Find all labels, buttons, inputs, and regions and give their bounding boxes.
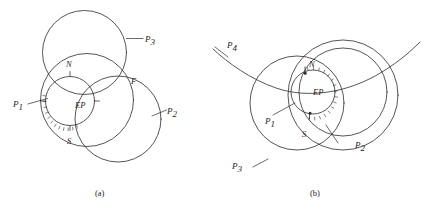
label-south-a: S <box>67 136 72 146</box>
node-south-dot-b <box>309 112 312 115</box>
leader-p3-b <box>253 159 268 167</box>
diagram-svg: P1 P2 P3 N S F EP (a) <box>0 0 427 214</box>
label-p3-b: P3 <box>231 161 243 174</box>
labels-b: P4 P3 P1 P2 N S EP (b) <box>226 40 366 198</box>
figure-container: P1 P2 P3 N S F EP (a) <box>0 0 427 214</box>
caption-a: (a) <box>95 188 105 198</box>
label-ep-a: EP <box>74 100 85 110</box>
circle-ep-a <box>46 77 95 126</box>
label-p2-b: P2 <box>354 140 366 153</box>
circle-p1-a <box>41 54 134 147</box>
label-p3-a: P3 <box>144 34 156 47</box>
circle-p2-a <box>75 76 161 162</box>
label-ep-b: EP <box>312 87 323 97</box>
circle-p3-b <box>250 56 344 150</box>
label-north-b: N <box>308 59 316 69</box>
leader-p2-a <box>152 110 167 116</box>
panel-a: P1 P2 P3 N S F EP (a) <box>12 11 178 199</box>
label-south-b: S <box>302 129 307 139</box>
node-north-dot-b <box>304 72 307 75</box>
leader-p2-b <box>326 125 338 143</box>
ep-cardinal-ticks-a <box>40 71 100 131</box>
label-north-a: N <box>65 59 73 69</box>
caption-b: (b) <box>310 188 320 198</box>
label-p1-a: P1 <box>12 99 23 112</box>
panel-b: P4 P3 P1 P2 N S EP (b) <box>213 40 420 198</box>
label-p4-b: P4 <box>226 40 238 53</box>
arc-p4-b <box>213 42 420 93</box>
label-p2-a: P2 <box>166 106 178 119</box>
label-focus-a: F <box>130 76 137 86</box>
leader-p1-b <box>273 103 295 115</box>
label-p1-b: P1 <box>264 116 275 129</box>
